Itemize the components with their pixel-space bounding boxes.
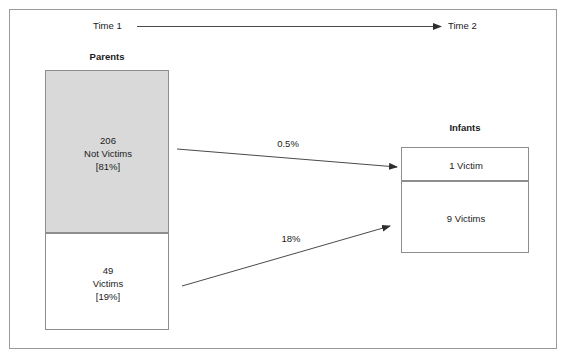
- infants-nine-victims-box[interactable]: 9 Victims: [401, 181, 529, 253]
- parents-victims-category: Victims: [93, 277, 123, 290]
- timeline-start-label: Time 1: [93, 20, 122, 32]
- parents-group-title: Parents: [90, 51, 125, 63]
- flow-rate-label-0-5-percent: 0.5%: [277, 138, 299, 150]
- parents-victims-percent: [19%]: [93, 290, 123, 303]
- parents-not-victims-box[interactable]: 206 Not Victims [81%]: [45, 70, 169, 233]
- flow-rate-label-18-percent: 18%: [281, 233, 300, 245]
- parents-victims-count: 49: [93, 264, 123, 277]
- parents-victims-box[interactable]: 49 Victims [19%]: [45, 233, 169, 330]
- parents-not-victims-category: Not Victims: [84, 147, 132, 160]
- parents-not-victims-text: 206 Not Victims [81%]: [84, 134, 132, 173]
- infants-group-title: Infants: [449, 122, 480, 134]
- parents-not-victims-percent: [81%]: [84, 160, 132, 173]
- infants-one-victim-label: 1 Victim: [449, 159, 483, 172]
- infants-nine-victims-label: 9 Victims: [447, 212, 485, 225]
- parents-victims-text: 49 Victims [19%]: [93, 264, 123, 303]
- parents-not-victims-count: 206: [84, 134, 132, 147]
- figure-canvas: Time 1 Time 2 Parents 206 Not Victims [8…: [0, 0, 568, 359]
- timeline-end-label: Time 2: [448, 20, 477, 32]
- infants-one-victim-box[interactable]: 1 Victim: [401, 147, 529, 181]
